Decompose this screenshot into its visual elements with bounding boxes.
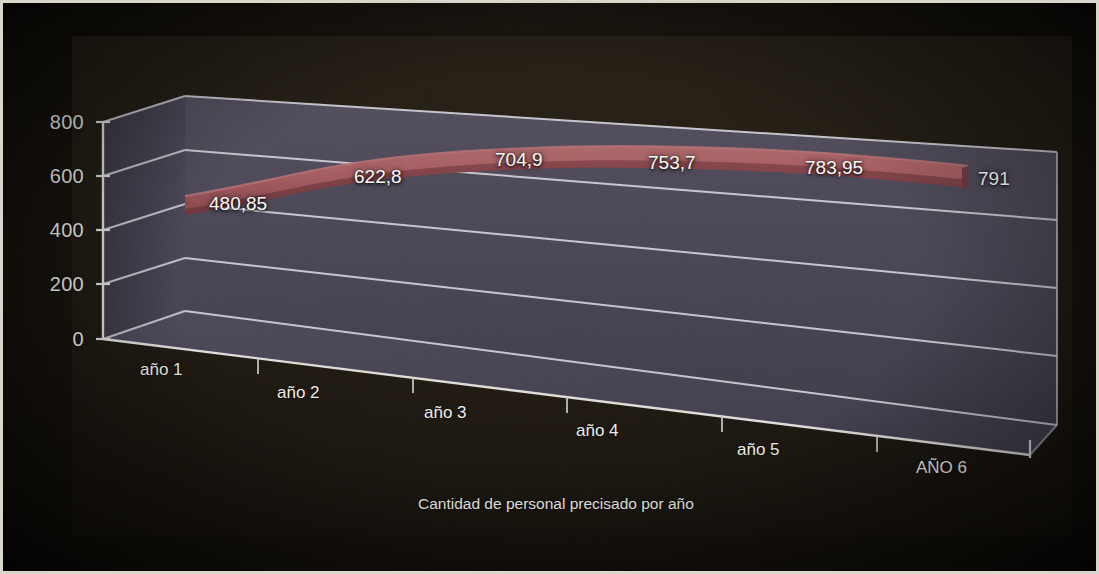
data-label-ano-4: 753,7 (648, 152, 696, 174)
y-axis-tick-400: 400 (18, 219, 84, 242)
data-label-ano-2: 622,8 (354, 166, 402, 188)
y-axis-tick-200: 200 (18, 273, 84, 296)
x-axis-label-ano-4: año 4 (576, 421, 619, 441)
x-axis-label-ano-5: año 5 (737, 440, 780, 460)
y-axis-tick-0: 0 (18, 328, 84, 351)
x-axis-label-ano-3: año 3 (424, 403, 467, 423)
y-axis-tick-800: 800 (18, 111, 84, 134)
x-axis-title: Cantidad de personal precisado por año (418, 495, 694, 513)
data-label-ano-1: 480,85 (209, 193, 267, 215)
data-label-ano-6: 791 (978, 168, 1010, 190)
data-label-ano-3: 704,9 (495, 149, 543, 171)
chart-plot-area (0, 0, 1099, 574)
x-axis-label-ano-6: AÑO 6 (916, 458, 967, 478)
x-axis-label-ano-2: año 2 (277, 383, 320, 403)
x-axis-label-ano-1: año 1 (140, 360, 183, 380)
data-label-ano-5: 783,95 (805, 157, 863, 179)
chart-screenshot: 800 600 400 200 0 año 1 año 2 año 3 año … (0, 0, 1099, 574)
y-axis-tick-600: 600 (18, 165, 84, 188)
